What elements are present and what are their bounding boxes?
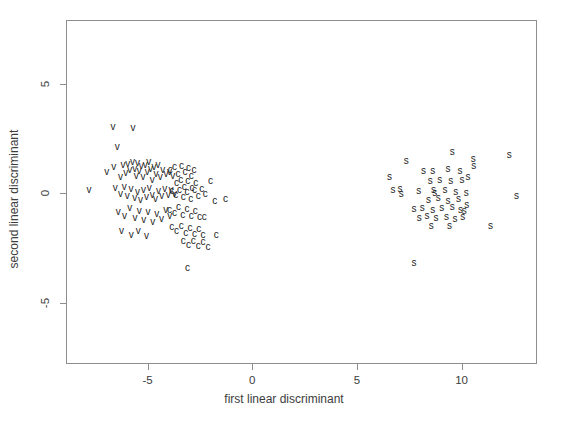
y-axis-tick-label: -5	[39, 294, 51, 312]
x-axis-tick	[148, 364, 149, 370]
x-axis-tick-label: 10	[455, 374, 468, 386]
y-axis-tick	[60, 84, 66, 85]
plot-frame	[66, 20, 537, 364]
x-axis-label: first linear discriminant	[0, 392, 568, 406]
x-axis-tick	[462, 364, 463, 370]
x-axis-tick-label: 5	[354, 374, 360, 386]
x-axis-tick-label: 0	[249, 374, 255, 386]
x-axis-tick-label: -5	[143, 374, 153, 386]
x-axis-tick	[357, 364, 358, 370]
y-axis-tick	[60, 193, 66, 194]
y-axis-tick-label: 5	[39, 75, 51, 93]
scatter-plot-figure: vvvvvvvvvvvvvvvvvvvvvvvvvvvvvvvvvvvvvvvv…	[0, 0, 568, 424]
y-axis-tick-label: 0	[39, 184, 51, 202]
y-axis-label: second linear discriminant	[7, 99, 21, 299]
x-axis-tick	[252, 364, 253, 370]
y-axis-tick	[60, 303, 66, 304]
